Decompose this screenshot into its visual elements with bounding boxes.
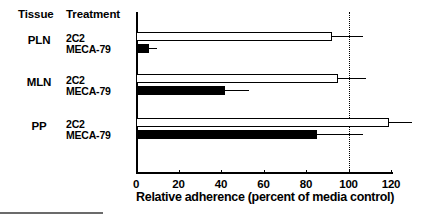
x-tick-label-80: 80 (300, 178, 312, 190)
column-header-treatment: Treatment (66, 8, 120, 20)
x-tick-label-40: 40 (215, 178, 227, 190)
x-tick-0 (136, 170, 137, 174)
x-tick-label-60: 60 (257, 178, 269, 190)
x-tick-label-0: 0 (133, 178, 139, 190)
error-bar-pln-meca-79 (149, 48, 158, 49)
bar-pp-2c2 (136, 118, 389, 127)
error-bar-mln-2c2 (338, 78, 366, 79)
bar-pln-meca-79 (136, 44, 149, 53)
page-divider-rule (0, 212, 103, 214)
treatment-label-group-pln: 2C2MECA-79 (66, 33, 111, 55)
error-bar-mln-meca-79 (225, 90, 248, 91)
x-tick-label-120: 120 (382, 178, 401, 190)
treatment-label-meca-79: MECA-79 (66, 44, 111, 55)
x-tick-20 (179, 170, 180, 174)
figure-panel: Tissue Treatment PLN2C2MECA-79MLN2C2MECA… (0, 0, 421, 219)
treatment-label-meca-79: MECA-79 (66, 86, 111, 97)
x-tick-100 (349, 170, 350, 174)
x-tick-label-20: 20 (172, 178, 184, 190)
error-bar-pp-2c2 (389, 122, 412, 123)
column-header-tissue: Tissue (18, 8, 54, 20)
x-axis-title: Relative adherence (percent of media con… (136, 190, 421, 204)
error-bar-pp-meca-79 (317, 134, 364, 135)
bar-pln-2c2 (136, 32, 332, 41)
bar-pp-meca-79 (136, 130, 317, 139)
plot-area: 020406080100120 (136, 12, 392, 174)
x-tick-40 (221, 170, 222, 174)
treatment-label-meca-79: MECA-79 (66, 130, 111, 141)
tissue-label-pln: PLN (16, 34, 62, 46)
bar-mln-2c2 (136, 74, 338, 83)
treatment-label-group-mln: 2C2MECA-79 (66, 75, 111, 97)
tissue-label-pp: PP (16, 120, 62, 132)
bar-mln-meca-79 (136, 86, 225, 95)
error-bar-pln-2c2 (332, 36, 364, 37)
tissue-label-mln: MLN (16, 76, 62, 88)
x-tick-120 (391, 170, 392, 174)
x-tick-60 (264, 170, 265, 174)
treatment-label-group-pp: 2C2MECA-79 (66, 119, 111, 141)
x-tick-label-100: 100 (339, 178, 358, 190)
x-tick-80 (306, 170, 307, 174)
